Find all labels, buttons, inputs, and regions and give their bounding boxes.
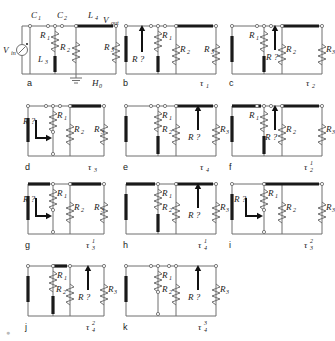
label-l3: L — [37, 54, 43, 64]
panel-f: R 1 R 2 R 3 R ? f τ 2 1 — [218, 92, 334, 170]
label-r2-sub: 2 — [169, 129, 172, 135]
panel-k: R 1 R 2 R 3 R ? k τ 4 3 — [112, 248, 224, 330]
label-r2-sub: 2 — [293, 49, 296, 55]
label-r1-sub: 1 — [64, 115, 67, 121]
panel-caption-k-sup: 3 — [203, 320, 207, 326]
node-c2l — [51, 104, 54, 107]
label-r1: R — [267, 188, 274, 198]
panel-caption-k-sub: 4 — [204, 327, 207, 333]
node-mid-bot — [51, 152, 54, 155]
label-r1-sub: 1 — [169, 115, 172, 121]
label-r2: R — [285, 44, 292, 54]
panel-b: R 1 R 2 R 3 R ? b τ 1 — [112, 4, 224, 86]
node-l4-left — [74, 24, 77, 27]
node-c2r — [167, 264, 170, 267]
label-r1-sub: 1 — [256, 35, 259, 41]
node-c2l — [262, 104, 265, 107]
panel-i: R 1 R 2 R 3 R ? i τ 3 2 — [218, 170, 334, 248]
node-mid-bot — [262, 230, 265, 233]
label-r3: R — [325, 44, 332, 54]
label-r1-sub: 1 — [169, 35, 172, 41]
node-tr — [102, 104, 105, 107]
node-c1r — [149, 24, 152, 27]
label-c1: C — [31, 10, 38, 20]
panel-id-j: j — [24, 322, 27, 332]
label-h0: H — [91, 78, 99, 88]
label-r2: R — [285, 202, 292, 212]
node-tr — [214, 264, 217, 267]
label-r3-sub: 3 — [210, 49, 214, 55]
label-r1-sub: 1 — [47, 35, 50, 41]
panel-id-a: a — [27, 78, 32, 88]
label-r1: R — [39, 30, 46, 40]
label-r3-sub: 3 — [331, 49, 335, 55]
label-r2: R — [55, 284, 62, 294]
panel-e: R 1 R 2 R 3 R ? e τ 4 — [112, 92, 224, 170]
panel-id-b: b — [123, 78, 128, 88]
footer-mark: ● — [6, 330, 12, 336]
label-r3: R — [93, 124, 100, 134]
probe-label: R ? — [187, 210, 201, 220]
label-r1-sub: 1 — [169, 193, 172, 199]
label-r1: R — [56, 270, 63, 280]
label-r1-sub: 1 — [275, 193, 278, 199]
probe-label: R ? — [77, 292, 91, 302]
label-r1: R — [56, 110, 63, 120]
node-r1-bot — [156, 290, 159, 293]
probe-label: R ? — [265, 52, 279, 62]
panel-caption-k: τ — [198, 322, 202, 332]
label-r2-sub: 2 — [67, 47, 70, 53]
panel-caption-j-sub: 4 — [92, 327, 95, 333]
panel-caption-g-sup: 1 — [92, 238, 95, 244]
label-r3: R — [203, 44, 210, 54]
label-r2-sub: 2 — [169, 207, 172, 213]
label-r2-sub: 2 — [81, 207, 84, 213]
panel-h: R 1 R 2 R 3 R ? h τ 4 1 — [112, 170, 224, 248]
label-r2-sub: 2 — [293, 129, 296, 135]
label-v-in-sub: in — [11, 50, 16, 56]
node-l4l — [174, 182, 177, 185]
node-tr — [102, 264, 105, 267]
node-c2l — [51, 182, 54, 185]
panel-caption-c-sub: 2 — [312, 83, 315, 89]
label-r3: R — [93, 202, 100, 212]
node-tl — [124, 104, 127, 107]
node-c1r — [255, 24, 258, 27]
panel-id-c: c — [229, 78, 234, 88]
panel-g: R 1 R 2 R 3 R ? g τ 3 1 — [0, 170, 112, 248]
node-l4l — [280, 24, 283, 27]
label-r2: R — [179, 44, 186, 54]
node-l4l — [280, 104, 283, 107]
node-c2l — [156, 264, 159, 267]
node-c2r — [163, 24, 166, 27]
panel-id-i: i — [229, 240, 231, 250]
panel-caption-c: τ — [306, 78, 310, 88]
label-r2: R — [161, 124, 168, 134]
label-r1: R — [56, 188, 63, 198]
probe-label: R ? — [233, 194, 247, 204]
node-c1-right — [46, 24, 49, 27]
label-r3-sub: 3 — [100, 207, 104, 213]
label-r2-sub: 2 — [187, 49, 190, 55]
node-l4l — [174, 24, 177, 27]
node-tl — [26, 104, 29, 107]
node-c1r — [255, 104, 258, 107]
label-c2: C — [57, 10, 64, 20]
label-h0-sub: 0 — [99, 83, 102, 89]
node-tr — [320, 104, 323, 107]
panel-caption-b: τ — [200, 78, 204, 88]
probe-label: R ? — [187, 292, 201, 302]
label-l4-sub: 4 — [95, 15, 98, 21]
label-r1-sub: 1 — [64, 275, 67, 281]
node-tr — [320, 24, 323, 27]
node-tl — [26, 264, 29, 267]
figure-sheet: V in C 1 C 2 L 4 V out R 1 L 3 R 2 R 3 a… — [0, 0, 335, 341]
node-c2l — [156, 24, 159, 27]
panel-a: V in C 1 C 2 L 4 V out R 1 L 3 R 2 R 3 a… — [0, 4, 124, 86]
label-r2-sub: 2 — [81, 129, 84, 135]
node-tl — [230, 182, 233, 185]
label-r3-sub: 3 — [225, 289, 229, 295]
node-c2r — [163, 104, 166, 107]
probe-label: R ? — [131, 54, 145, 64]
panel-caption-f-sup: 1 — [310, 160, 313, 166]
